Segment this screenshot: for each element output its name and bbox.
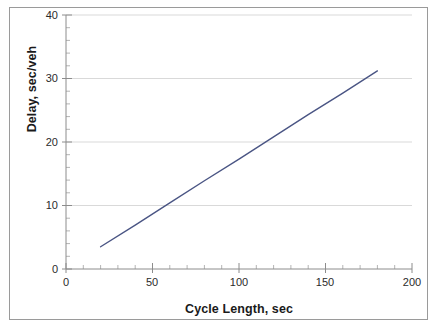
chart-figure: 40 30 20 10 0 0 50 100 150 200 Delay, se… — [0, 0, 438, 329]
y-axis-title-text: Delay, sec/veh — [25, 46, 39, 133]
x-axis-title: Cycle Length, sec — [66, 299, 412, 317]
x-tick-label-150: 150 — [308, 276, 342, 288]
x-tick-label-0: 0 — [49, 276, 83, 288]
x-tick-label-200: 200 — [395, 276, 429, 288]
y-axis-title: Delay, sec/veh — [21, 24, 43, 154]
y-tick-label-10: 10 — [32, 199, 58, 211]
x-tick-label-100: 100 — [222, 276, 256, 288]
x-tick-label-50: 50 — [135, 276, 169, 288]
y-tick-label-0: 0 — [32, 263, 58, 275]
y-tick-label-40: 40 — [32, 9, 58, 21]
x-axis-title-text: Cycle Length, sec — [185, 302, 293, 316]
